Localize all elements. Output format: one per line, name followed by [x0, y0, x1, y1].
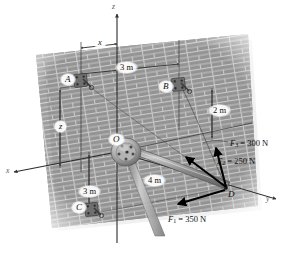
- boom-hub-at-O: [111, 138, 141, 166]
- diagram-graphics: [0, 0, 289, 253]
- point-D-marker: [224, 186, 228, 190]
- figure-canvas: z x y x z 3 m 2 m 3 m 4 m A B C D O F3 =…: [0, 0, 289, 253]
- wall-vignette: [0, 0, 289, 253]
